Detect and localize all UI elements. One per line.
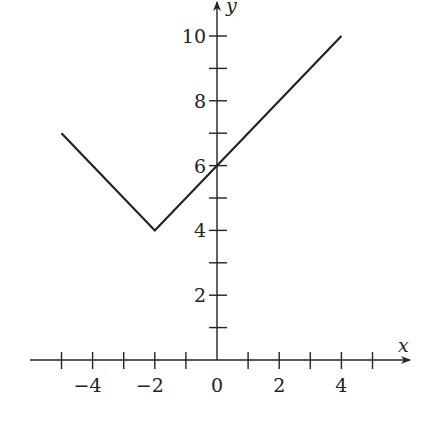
y-tick-label: 2 [194, 284, 206, 306]
function-graph: −4−2024 246810 x y [0, 0, 422, 426]
y-axis-tick-labels: 246810 [182, 25, 206, 306]
data-series [62, 36, 342, 230]
x-tick-label: −4 [74, 374, 102, 396]
x-tick-label: −2 [136, 374, 164, 396]
x-tick-label: 2 [273, 374, 285, 396]
x-tick-label: 0 [211, 374, 223, 396]
y-tick-label: 10 [182, 25, 206, 47]
x-tick-label: 4 [335, 374, 347, 396]
x-axis-tick-labels: −4−2024 [74, 374, 348, 396]
function-line [62, 36, 342, 230]
y-tick-label: 8 [194, 90, 206, 112]
x-axis-label: x [398, 334, 409, 356]
y-tick-label: 4 [194, 219, 206, 241]
y-axis-label: y [225, 0, 237, 16]
y-tick-label: 6 [194, 155, 206, 177]
y-axis-ticks [209, 36, 227, 328]
